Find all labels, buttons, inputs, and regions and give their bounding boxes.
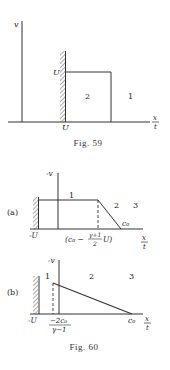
fig60b-wall-hatch — [33, 276, 38, 314]
fig59-wall-label-bottom: U — [62, 123, 69, 132]
fig59-x-label-den: t — [154, 123, 157, 131]
fig60a-tick-frac-num: γ+1 — [89, 231, 101, 239]
fig60a-panel-label: (a) — [7, 208, 18, 217]
fig60b-region-3: 3 — [129, 272, 134, 281]
fig60a-region-1: 1 — [69, 191, 74, 200]
fig60a-region-3: 3 — [133, 201, 138, 210]
fig60b-tick-frac-num: −2c₀ — [50, 317, 67, 325]
fig60a-y-axis-label: -v — [46, 169, 54, 178]
fig59-region-2: 2 — [85, 92, 90, 101]
fig59: v U U 2 1 x t Fig. 59 — [8, 20, 159, 148]
fig60b-panel-label: (b) — [7, 288, 18, 297]
fig60a-x-label-den: t — [143, 243, 146, 251]
fig60a-x-label-num: x — [142, 234, 146, 242]
fig60b-y-axis-label: -v — [48, 256, 56, 265]
fig59-region-1: 1 — [128, 92, 133, 101]
figure-canvas: v U U 2 1 x t Fig. 59 -v (a) 1 2 3 c₀ -U… — [0, 0, 170, 370]
fig60a-velocity-profile — [39, 200, 122, 229]
fig60a-wall-label: -U — [29, 231, 39, 240]
fig60-caption: Fig. 60 — [69, 342, 98, 352]
fig60b-wall-label: -U — [28, 316, 38, 325]
fig60a-wall-hatch — [33, 197, 38, 229]
fig60a-region-2: 2 — [114, 201, 119, 210]
fig60b-region-1: 1 — [45, 272, 50, 281]
fig59-wall-hatch — [60, 51, 65, 122]
fig60a-c0-label: c₀ — [122, 219, 129, 228]
fig60b-velocity-profile — [53, 283, 132, 314]
fig59-y-axis-label: v — [14, 20, 19, 29]
fig60b-region-2: 2 — [89, 272, 94, 281]
fig60b-x-label-num: x — [145, 315, 149, 323]
fig60a-tick-frac-den: 2 — [92, 240, 97, 247]
fig59-x-label-num: x — [153, 114, 157, 122]
fig60b-x-label-den: t — [146, 324, 149, 332]
fig60-b: -v (b) 1 2 3 -U −2c₀ γ−1 c₀ x t Fig. 60 — [7, 256, 151, 352]
fig59-caption: Fig. 59 — [73, 138, 102, 148]
fig60b-c0-label: c₀ — [128, 316, 135, 325]
fig60b-tick-frac-den: γ−1 — [52, 326, 67, 334]
fig60-a: -v (a) 1 2 3 c₀ -U (c₀ − γ+1 2 U) x t — [7, 169, 148, 251]
fig60a-tick-open: (c₀ − — [65, 235, 84, 244]
fig59-wall-label-top: U — [53, 68, 60, 77]
fig60a-tick-close: U) — [103, 235, 112, 244]
